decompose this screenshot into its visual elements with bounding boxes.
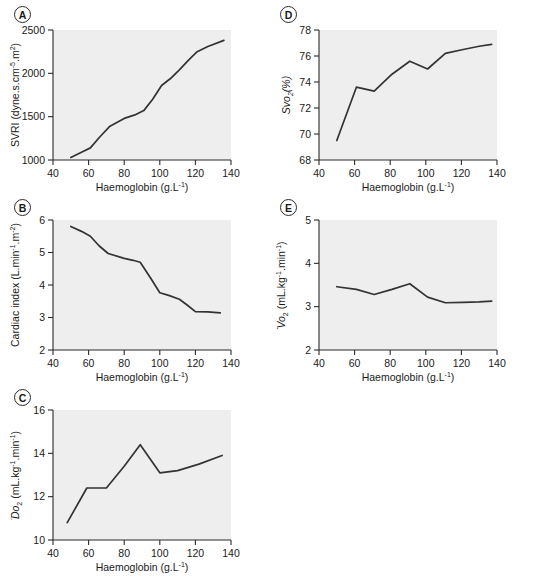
x-ticks: 40 60 80 100 120 140 (47, 350, 240, 369)
plot-background (53, 410, 231, 540)
x-axis-title: Haemoglobin (g.L-1) (96, 561, 189, 573)
y-tick-label: 4 (305, 257, 311, 269)
x-tick-label: 40 (313, 357, 325, 369)
y-axis-title: ̇Do2 (mL.kg-1.min-1) (9, 431, 23, 520)
panel-d: D 68 70 72 74 76 78 (266, 0, 531, 195)
panel-e: E 2 3 4 5 40 60 (266, 195, 531, 385)
x-tick-label: 140 (222, 547, 240, 559)
x-axis-title: Haemoglobin (g.L-1) (362, 371, 455, 383)
y-tick-label: 6 (39, 214, 45, 226)
y-tick-label: 70 (299, 128, 311, 140)
panel-tag-d: D (280, 6, 297, 23)
x-tick-label: 80 (118, 357, 130, 369)
x-axis-title: Haemoglobin (g.L-1) (362, 181, 455, 193)
panel-b-plot: 2 3 4 5 6 40 60 80 100 120 140 (0, 195, 265, 385)
x-tick-label: 60 (349, 167, 361, 179)
y-tick-label: 78 (299, 24, 311, 36)
x-tick-label: 80 (384, 167, 396, 179)
panel-tag-e: E (280, 199, 297, 216)
y-tick-label: 12 (33, 490, 45, 502)
x-tick-label: 40 (313, 167, 325, 179)
y-tick-label: 1500 (22, 110, 46, 122)
x-tick-label: 40 (47, 167, 59, 179)
x-ticks: 40 60 80 100 120 140 (313, 350, 506, 369)
panel-b: B 2 3 4 5 6 (0, 195, 265, 385)
x-tick-label: 140 (222, 167, 240, 179)
y-ticks: 2 3 4 5 (305, 214, 319, 356)
y-tick-label: 2 (305, 344, 311, 356)
x-axis-title: Haemoglobin (g.L-1) (96, 371, 189, 383)
x-tick-label: 80 (384, 357, 396, 369)
panel-c-plot: 10 12 14 16 40 60 80 100 120 140 (0, 385, 265, 580)
x-tick-label: 120 (187, 167, 205, 179)
y-tick-label: 5 (39, 246, 45, 258)
y-tick-label: 2000 (22, 67, 46, 79)
y-tick-label: 3 (39, 311, 45, 323)
panel-tag-a: A (14, 6, 31, 23)
x-tick-label: 80 (118, 547, 130, 559)
x-tick-label: 120 (187, 357, 205, 369)
x-tick-label: 60 (83, 547, 95, 559)
panel-e-plot: 2 3 4 5 40 60 80 100 120 140 Ha (266, 195, 531, 385)
plot-background (53, 220, 231, 350)
panel-tag-c: C (14, 389, 31, 406)
y-ticks: 1000 1500 2000 2500 (22, 24, 53, 166)
x-tick-label: 100 (417, 357, 435, 369)
x-tick-label: 100 (151, 547, 169, 559)
x-tick-label: 40 (47, 547, 59, 559)
figure-container: A 1000 1500 2000 2500 4 (0, 0, 533, 582)
y-axis-title: Cardiac index (L.min-1.m-2) (9, 223, 21, 347)
x-tick-label: 120 (187, 547, 205, 559)
x-tick-label: 60 (349, 357, 361, 369)
y-axis-title: ̇Vo2 (mL.kg-1.min-1) (275, 241, 289, 329)
y-tick-label: 68 (299, 154, 311, 166)
y-ticks: 10 12 14 16 (33, 404, 53, 546)
y-tick-label: 2500 (22, 24, 46, 36)
panel-c: C 10 12 14 16 40 (0, 385, 265, 580)
x-tick-label: 80 (118, 167, 130, 179)
x-tick-label: 120 (453, 167, 471, 179)
x-axis-title: Haemoglobin (g.L-1) (96, 181, 189, 193)
panel-tag-b: B (14, 199, 31, 216)
x-tick-label: 40 (47, 357, 59, 369)
x-ticks: 40 60 80 100 120 140 (47, 160, 240, 179)
y-tick-label: 76 (299, 50, 311, 62)
x-tick-label: 120 (453, 357, 471, 369)
y-tick-label: 16 (33, 404, 45, 416)
x-tick-label: 60 (83, 357, 95, 369)
plot-background (53, 30, 231, 160)
panel-a-plot: 1000 1500 2000 2500 40 60 80 100 120 140 (0, 0, 265, 195)
y-ticks: 68 70 72 74 76 78 (299, 24, 319, 166)
x-tick-label: 140 (488, 167, 506, 179)
x-tick-label: 100 (417, 167, 435, 179)
x-tick-label: 100 (151, 167, 169, 179)
plot-background (319, 30, 497, 160)
y-tick-label: 14 (33, 447, 45, 459)
panel-a: A 1000 1500 2000 2500 4 (0, 0, 265, 195)
x-ticks: 40 60 80 100 120 140 (313, 160, 506, 179)
y-tick-label: 74 (299, 76, 311, 88)
y-ticks: 2 3 4 5 6 (39, 214, 53, 356)
panel-d-plot: 68 70 72 74 76 78 40 60 80 100 120 140 (266, 0, 531, 195)
y-tick-label: 1000 (22, 154, 46, 166)
y-tick-label: 72 (299, 102, 311, 114)
y-tick-label: 3 (305, 300, 311, 312)
y-tick-label: 5 (305, 214, 311, 226)
x-tick-label: 100 (151, 357, 169, 369)
y-tick-label: 4 (39, 279, 45, 291)
x-tick-label: 140 (488, 357, 506, 369)
x-tick-label: 140 (222, 357, 240, 369)
x-ticks: 40 60 80 100 120 140 (47, 540, 240, 559)
y-axis-title: SVRI (dyne.s.cm-5.m2) (9, 43, 21, 147)
y-tick-label: 10 (33, 534, 45, 546)
y-axis-title: Svo2(%) (280, 76, 294, 114)
y-tick-label: 2 (39, 344, 45, 356)
x-tick-label: 60 (83, 167, 95, 179)
